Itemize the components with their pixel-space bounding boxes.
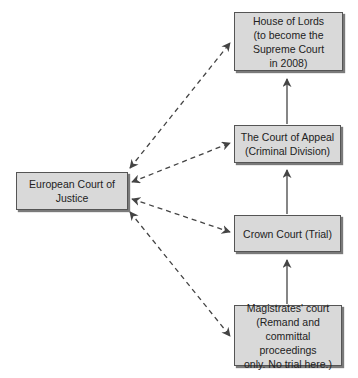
node-house-of-lords: House of Lords (to become the Supreme Co… — [234, 12, 343, 71]
node-label: European Court of Justice — [29, 177, 115, 205]
court-hierarchy-diagram: European Court of Justice House of Lords… — [0, 0, 358, 378]
node-european-court-of-justice: European Court of Justice — [16, 172, 128, 210]
dashed-arrow-ecj-lords — [130, 43, 230, 168]
node-label: Crown Court (Trial) — [243, 227, 332, 241]
node-crown-court: Crown Court (Trial) — [234, 215, 341, 252]
dashed-arrow-ecj-appeal — [132, 143, 230, 182]
dashed-arrow-ecj-magistrates — [130, 212, 230, 336]
node-court-of-appeal: The Court of Appeal (Criminal Division) — [234, 125, 341, 163]
node-label: Magistrates' court (Remand and committal… — [239, 301, 337, 371]
node-magistrates-court: Magistrates' court (Remand and committal… — [234, 305, 342, 366]
dashed-arrow-ecj-crown — [132, 199, 230, 232]
node-label: The Court of Appeal (Criminal Division) — [241, 130, 334, 158]
node-label: House of Lords (to become the Supreme Co… — [253, 14, 324, 70]
